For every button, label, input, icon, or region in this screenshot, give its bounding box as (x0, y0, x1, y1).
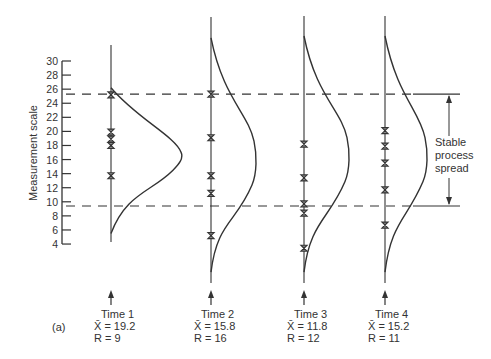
arrow-up-icon (301, 290, 307, 298)
y-tick-label: 28 (46, 69, 58, 81)
y-tick-label: 8 (52, 210, 58, 222)
time-distributions: Time 1X̄ = 19.2R = 9Time 2X̄ = 15.8R = 1… (94, 16, 427, 344)
time-label: Time 1 (101, 308, 134, 320)
control-limit-lines (66, 94, 460, 206)
arrow-down-icon (446, 197, 452, 205)
arrow-up-icon (382, 290, 388, 298)
y-tick-label: 30 (46, 55, 58, 67)
y-tick-label: 18 (46, 139, 58, 151)
y-tick-label: 22 (46, 111, 58, 123)
y-tick-label: 4 (52, 238, 58, 250)
distribution-curve (385, 36, 427, 272)
xbar-value: X̄ = 15.2 (368, 320, 409, 332)
y-tick-label: 14 (46, 168, 58, 180)
range-value: R = 9 (94, 332, 121, 344)
annotation-line-2: process (435, 149, 474, 161)
y-tick-label: 24 (46, 97, 58, 109)
range-value: R = 12 (287, 332, 320, 344)
distribution-curve (211, 38, 256, 272)
y-tick-label: 12 (46, 182, 58, 194)
y-tick-label: 6 (52, 224, 58, 236)
arrow-up-icon (446, 95, 452, 103)
stable-process-spread-annotation: Stable process spread (435, 136, 474, 174)
time-label: Time 3 (294, 308, 327, 320)
time-column-3: Time 3X̄ = 11.8R = 12 (287, 16, 349, 344)
time-label: Time 2 (201, 308, 234, 320)
arrow-up-icon (108, 290, 114, 298)
distribution-curve (304, 36, 349, 272)
range-value: R = 11 (368, 332, 400, 344)
range-value: R = 16 (194, 332, 227, 344)
time-column-1: Time 1X̄ = 19.2R = 9 (94, 45, 182, 344)
arrow-up-icon (208, 290, 214, 298)
annotation-line-1: Stable (435, 136, 466, 148)
y-tick-label: 10 (46, 196, 58, 208)
y-tick-label: 20 (46, 125, 58, 137)
panel-label: (a) (52, 321, 65, 333)
distribution-curve (111, 88, 182, 234)
y-tick-label: 26 (46, 83, 58, 95)
y-tick-label: 16 (46, 154, 58, 166)
xbar-value: X̄ = 11.8 (287, 320, 327, 332)
time-column-2: Time 2X̄ = 15.8R = 16 (194, 17, 256, 344)
annotation-line-3: spread (435, 162, 469, 174)
time-label: Time 4 (375, 308, 408, 320)
y-axis-title: Measurement scale (27, 105, 39, 201)
process-spread-diagram: 4681012141618202224262830 Measurement sc… (0, 0, 491, 359)
xbar-value: X̄ = 19.2 (94, 320, 135, 332)
time-column-4: Time 4X̄ = 15.2R = 11 (368, 16, 427, 344)
y-axis: 4681012141618202224262830 (46, 55, 71, 250)
xbar-value: X̄ = 15.8 (194, 320, 235, 332)
